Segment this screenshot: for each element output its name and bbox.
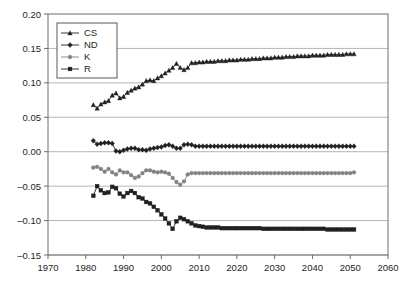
x-axis-tick-label: 2020 — [226, 262, 247, 273]
data-point-marker — [148, 201, 152, 205]
data-point-marker — [178, 216, 182, 220]
data-point-marker — [318, 227, 322, 231]
data-point-marker — [163, 217, 167, 221]
data-point-marker — [299, 227, 303, 231]
data-point-marker — [280, 171, 284, 175]
series-R — [91, 184, 355, 231]
y-axis-tick-label: –0.05 — [17, 181, 41, 192]
data-point-marker — [159, 212, 163, 216]
data-point-marker — [348, 171, 352, 175]
data-point-marker — [114, 186, 118, 190]
legend-label-R: R — [84, 63, 91, 74]
data-point-marker — [122, 195, 126, 199]
data-point-marker — [265, 171, 269, 175]
data-point-marker — [182, 217, 186, 221]
data-point-marker — [133, 191, 137, 195]
data-point-marker — [329, 171, 333, 175]
legend-label-CS: CS — [84, 27, 97, 38]
data-point-marker — [284, 227, 288, 231]
data-point-marker — [273, 227, 277, 231]
x-axis-tick-label: 2000 — [151, 262, 172, 273]
data-point-marker — [99, 188, 103, 192]
data-point-marker — [190, 221, 194, 225]
data-point-marker — [152, 205, 156, 209]
data-point-marker — [292, 171, 296, 175]
data-point-marker — [341, 228, 345, 232]
chart-legend: CSNDKR — [57, 23, 117, 78]
data-point-marker — [337, 228, 341, 232]
data-point-marker — [122, 170, 126, 174]
data-point-marker — [103, 191, 107, 195]
data-point-marker — [250, 171, 254, 175]
data-point-marker — [91, 103, 95, 107]
y-axis-tick-label: 0.20 — [23, 9, 42, 20]
data-point-marker — [269, 171, 273, 175]
data-point-marker — [258, 171, 262, 175]
x-axis-tick-label: 2060 — [377, 262, 398, 273]
data-point-marker — [265, 227, 269, 231]
data-point-marker — [129, 173, 133, 177]
data-point-marker — [345, 228, 349, 232]
data-point-marker — [114, 149, 119, 154]
data-point-marker — [295, 171, 299, 175]
data-point-marker — [254, 226, 258, 230]
data-point-marker — [224, 226, 228, 230]
legend-label-ND: ND — [84, 39, 98, 50]
data-point-marker — [91, 194, 95, 198]
data-point-marker — [110, 185, 114, 189]
data-point-marker — [125, 191, 129, 195]
data-point-marker — [110, 170, 114, 174]
data-point-marker — [322, 171, 326, 175]
data-point-marker — [311, 227, 315, 231]
data-point-marker — [155, 145, 160, 150]
data-point-marker — [151, 146, 156, 151]
data-point-marker — [99, 167, 103, 171]
data-point-marker — [185, 142, 190, 147]
data-point-marker — [129, 189, 133, 193]
data-point-marker — [288, 227, 292, 231]
data-point-marker — [205, 226, 209, 230]
data-point-marker — [201, 225, 205, 229]
x-axis-tick-label: 1980 — [75, 262, 96, 273]
data-point-marker — [106, 140, 111, 145]
data-point-marker — [144, 168, 148, 172]
data-point-marker — [156, 208, 160, 212]
data-point-marker — [144, 200, 148, 204]
data-point-marker — [295, 227, 299, 231]
data-point-marker — [125, 170, 129, 174]
data-point-marker — [329, 228, 333, 232]
data-point-marker — [216, 171, 220, 175]
data-point-marker — [314, 171, 318, 175]
data-point-marker — [341, 171, 345, 175]
data-point-marker — [258, 226, 262, 230]
data-point-marker — [303, 227, 307, 231]
data-point-marker — [167, 221, 171, 225]
data-point-marker — [311, 171, 315, 175]
data-point-marker — [277, 227, 281, 231]
data-point-marker — [193, 171, 197, 175]
data-point-marker — [307, 227, 311, 231]
data-point-marker — [141, 171, 145, 175]
data-point-marker — [175, 180, 179, 184]
data-point-marker — [167, 172, 171, 176]
data-point-marker — [261, 171, 265, 175]
data-point-marker — [348, 228, 352, 232]
data-point-marker — [174, 61, 178, 65]
data-point-marker — [163, 170, 167, 174]
data-point-marker — [261, 227, 265, 231]
data-point-marker — [273, 171, 277, 175]
line-chart: 0.200.150.100.050.00–0.05–0.10–0.1519701… — [0, 0, 410, 288]
data-point-marker — [333, 171, 337, 175]
data-point-marker — [246, 226, 250, 230]
data-point-marker — [118, 192, 122, 196]
data-point-marker — [110, 141, 115, 146]
series-K — [91, 165, 355, 187]
data-point-marker — [148, 78, 152, 82]
data-point-marker — [107, 167, 111, 171]
x-axis-tick-label: 1970 — [37, 262, 58, 273]
data-point-marker — [254, 171, 258, 175]
x-axis-tick-label: 2040 — [302, 262, 323, 273]
data-point-marker — [288, 171, 292, 175]
data-point-marker — [68, 67, 72, 71]
data-point-marker — [280, 227, 284, 231]
